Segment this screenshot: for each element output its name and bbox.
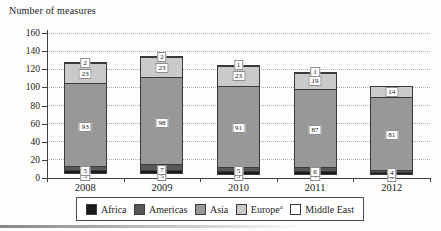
legend-swatch-icon — [195, 204, 206, 215]
x-axis-tick — [353, 178, 354, 182]
y-axis-tick-label: 100 — [0, 82, 40, 92]
stacked-bar-chart-figure: Number of measures AfricaAmericasAsiaEur… — [0, 0, 441, 231]
legend-item-europe: Europea — [236, 204, 283, 215]
chart-title: Number of measures — [9, 5, 96, 16]
x-axis-tick — [47, 178, 48, 182]
segment-data-label: 91 — [232, 123, 245, 133]
segment-data-label: 5 — [81, 166, 91, 176]
legend-swatch-icon — [134, 204, 145, 215]
y-axis-tick-label: 20 — [0, 155, 40, 165]
y-axis-tick-label: 0 — [0, 173, 40, 183]
segment-data-label: 23 — [232, 71, 245, 81]
legend-item-middle-east: Middle East — [290, 204, 354, 215]
legend-swatch-icon — [86, 204, 97, 215]
gridline — [47, 51, 430, 52]
segment-data-label: 23 — [79, 69, 92, 79]
segment-data-label: 93 — [79, 122, 92, 132]
y-axis-tick-label: 140 — [0, 46, 40, 56]
x-axis-tick — [200, 178, 201, 182]
segment-data-label: 98 — [155, 118, 168, 128]
x-axis-tick — [277, 178, 278, 182]
segment-data-label: 23 — [155, 63, 168, 73]
y-axis-tick-label: 40 — [0, 137, 40, 147]
segment-data-label: 1 — [234, 60, 244, 70]
x-axis-category-label: 2010 — [209, 182, 269, 193]
legend: AfricaAmericasAsiaEuropeaMiddle East — [76, 197, 364, 221]
legend-swatch-icon — [236, 204, 247, 215]
stacked-bar-2010 — [217, 65, 260, 178]
y-axis-tick-label: 60 — [0, 119, 40, 129]
segment-data-label: 4 — [387, 168, 397, 178]
stacked-bar-2008 — [64, 62, 107, 178]
segment-data-label: 2 — [157, 52, 167, 62]
legend-item-africa: Africa — [86, 204, 127, 215]
segment-data-label: 7 — [157, 165, 167, 175]
legend-label: Americas — [149, 204, 187, 215]
legend-label: Europea — [251, 204, 283, 215]
segment-data-label: 5 — [234, 166, 244, 176]
gridline — [47, 33, 430, 34]
x-axis-category-label: 2008 — [55, 182, 115, 193]
legend-item-americas: Americas — [134, 204, 187, 215]
segment-data-label: 6 — [310, 167, 320, 177]
segment-data-label: 2 — [81, 58, 91, 68]
legend-swatch-icon — [290, 204, 301, 215]
y-axis-tick-label: 120 — [0, 64, 40, 74]
segment-data-label: 1 — [310, 67, 320, 77]
legend-label: Middle East — [305, 204, 354, 215]
legend-label: Asia — [210, 204, 228, 215]
segment-data-label: 14 — [385, 87, 398, 97]
y-axis-tick-label: 160 — [0, 28, 40, 38]
page-rule-decoration — [0, 225, 300, 228]
x-axis-tick — [430, 178, 431, 182]
segment-data-label: 81 — [385, 130, 398, 140]
segment-data-label: 87 — [309, 125, 322, 135]
legend-item-asia: Asia — [195, 204, 228, 215]
x-axis-category-label: 2012 — [362, 182, 422, 193]
y-axis-tick-label: 80 — [0, 101, 40, 111]
x-axis-category-label: 2011 — [285, 182, 345, 193]
x-axis-tick — [124, 178, 125, 182]
segment-data-label: 19 — [309, 76, 322, 86]
legend-label: Africa — [101, 204, 127, 215]
y-axis-line — [47, 30, 48, 178]
x-axis-category-label: 2009 — [132, 182, 192, 193]
